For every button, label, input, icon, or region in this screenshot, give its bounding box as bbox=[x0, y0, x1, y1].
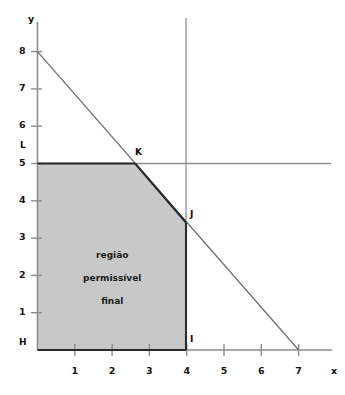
vertex-label-I: I bbox=[190, 335, 193, 344]
y-tick-label-2: 2 bbox=[19, 270, 26, 280]
y-axis-label: y bbox=[28, 14, 34, 24]
vertex-label-L: L bbox=[20, 141, 26, 150]
y-tick-label-1: 1 bbox=[19, 307, 26, 317]
region-annotation-line3: final bbox=[101, 296, 123, 306]
y-tick-label-4: 4 bbox=[19, 195, 26, 205]
x-tick-label-5: 5 bbox=[221, 366, 228, 376]
y-tick-label-5: 5 bbox=[19, 158, 26, 168]
region-annotation: região permissível final bbox=[52, 238, 160, 319]
vertex-label-H: H bbox=[19, 338, 27, 347]
x-tick-label-7: 7 bbox=[295, 366, 302, 376]
x-tick-label-1: 1 bbox=[72, 366, 79, 376]
plot-canvas bbox=[0, 0, 345, 395]
y-tick-label-8: 8 bbox=[19, 46, 26, 56]
vertex-label-K: K bbox=[135, 148, 142, 157]
x-tick-label-3: 3 bbox=[146, 366, 153, 376]
region-annotation-line1: região bbox=[96, 250, 128, 260]
x-tick-label-6: 6 bbox=[258, 366, 265, 376]
x-tick-label-4: 4 bbox=[183, 366, 190, 376]
y-tick-label-3: 3 bbox=[19, 232, 26, 242]
x-axis-label: x bbox=[331, 366, 337, 376]
chart-figure: y x 8 7 6 5 4 3 2 1 1 2 3 4 5 6 7 L H K … bbox=[0, 0, 345, 395]
region-annotation-line2: permissível bbox=[83, 273, 141, 283]
vertex-label-J: J bbox=[190, 210, 193, 219]
y-tick-label-6: 6 bbox=[19, 120, 26, 130]
y-tick-label-7: 7 bbox=[19, 83, 26, 93]
x-tick-label-2: 2 bbox=[109, 366, 116, 376]
